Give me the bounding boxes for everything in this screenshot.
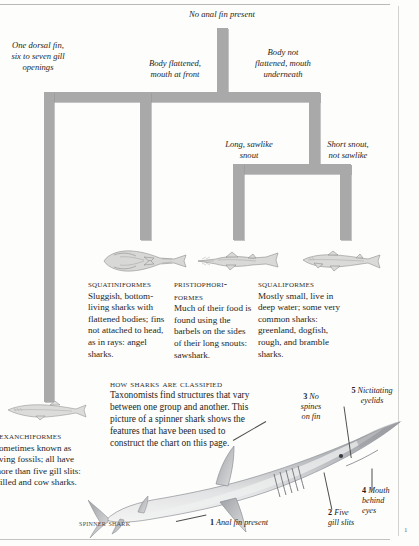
label-one-dorsal-l1: One dorsal fin,: [12, 40, 64, 50]
cow-shark-illustration: [6, 401, 90, 421]
how-classified-heading: How sharks are classified: [110, 378, 260, 389]
spinner-shark-caption: Spinner shark: [79, 519, 130, 528]
label-shortsnout-l2: not sawlike: [329, 150, 368, 160]
tree-branch-squatiniformes: [140, 92, 151, 240]
callout-2-text-a: Five: [334, 508, 349, 517]
order-body-squaliformes: Mostly small, live in deep water; some v…: [258, 291, 346, 361]
bottom-rule: [0, 539, 390, 540]
callout-5-nictitating-eyelids: 5 Nictitating eyelids: [336, 386, 408, 406]
tree-branch-squaliformes: [340, 164, 351, 240]
label-flattened-l2: mouth at front: [151, 69, 200, 79]
label-one-dorsal-fin: One dorsal fin, six to seven gill openin…: [0, 40, 90, 74]
order-column-squaliformes: Squaliformes Mostly small, live in deep …: [258, 278, 346, 360]
callout-5-number: 5: [351, 386, 355, 395]
label-one-dorsal-l2: six to seven gill: [11, 51, 64, 61]
callout-2-number: 2: [328, 508, 332, 517]
order-column-pristiophoriformes: Pristiophori-formes Much of their food i…: [174, 278, 254, 361]
callout-1-anal-fin: 1 Anal fin present: [210, 518, 310, 528]
order-body-pristiophoriformes: Much of their food is found using the ba…: [174, 303, 254, 361]
label-sawlike-l1: Long, sawlike: [225, 139, 273, 149]
callout-5-text-b: eyelids: [361, 396, 384, 405]
callout-4-text-c: eyes: [362, 506, 376, 515]
dogfish-shark-illustration: [300, 250, 386, 272]
order-head-pristiophoriformes: Pristiophori-formes: [174, 278, 227, 302]
callout-5-text-a: Nictitating: [358, 386, 393, 395]
angel-shark-illustration: [100, 246, 190, 274]
callout-3-number: 3: [303, 392, 307, 401]
label-notflat-l1: Body not: [268, 47, 299, 57]
label-notflat-l2: flattened, mouth: [255, 58, 311, 68]
callout-4-text-a: Mouth: [368, 486, 389, 495]
callout-3-no-spines-on-fin: 3 No spines on fin: [288, 392, 334, 422]
callout-2-text-b: gill slits: [328, 518, 354, 527]
callout-1-text: Anal fin present: [216, 518, 268, 527]
callout-4-mouth-behind-eyes: 4 Mouth behind eyes: [362, 486, 412, 516]
order-head-squaliformes: Squaliformes: [258, 278, 314, 289]
label-no-anal-fin-text: No anal fin present: [189, 9, 255, 19]
sawshark-illustration: [196, 250, 282, 272]
order-column-hexanchiformes: Hexanchiformes Sometimes known as living…: [0, 430, 86, 489]
callout-4-number: 4: [362, 486, 366, 495]
tree-branch-pristiophoriformes: [233, 164, 244, 240]
callout-4-text-b: behind: [362, 496, 384, 505]
tree-branch-hexanchiformes: [44, 92, 54, 402]
tree-level2-crossbar: [233, 164, 351, 174]
label-no-anal-fin: No anal fin present: [157, 9, 287, 20]
callout-3-text-c: on fin: [302, 412, 321, 421]
label-body-not-flattened: Body not flattened, mouth underneath: [234, 47, 332, 81]
label-sawlike-l2: snout: [240, 150, 259, 160]
order-head-hexanchiformes: Hexanchiformes: [0, 430, 61, 441]
top-rule: [0, 4, 390, 5]
order-body-hexanchiformes: Sometimes known as living fossils; all h…: [0, 443, 81, 488]
label-body-flattened: Body flattened, mouth at front: [125, 58, 225, 80]
label-one-dorsal-l3: openings: [22, 62, 53, 72]
label-notflat-l3: underneath: [263, 69, 302, 79]
tree-level1-crossbar: [44, 92, 320, 102]
order-column-squatiniformes: Squatiniformes Sluggish, bottom-living s…: [88, 278, 172, 360]
label-shortsnout-l1: Short snout,: [327, 139, 369, 149]
page-canvas: 1 No anal fin present One dorsal fin, si…: [0, 0, 419, 546]
label-short-snout: Short snout, not sawlike: [305, 139, 391, 161]
callout-3-text-b: spines: [301, 402, 321, 411]
order-head-squatiniformes: Squatiniformes: [88, 278, 151, 289]
label-flattened-l1: Body flattened,: [149, 58, 201, 68]
callout-1-number: 1: [210, 518, 214, 527]
label-long-sawlike-snout: Long, sawlike snout: [206, 139, 292, 161]
order-body-squatiniformes: Sluggish, bottom-living sharks with flat…: [88, 291, 172, 361]
callout-3-text-a: No: [309, 392, 319, 401]
